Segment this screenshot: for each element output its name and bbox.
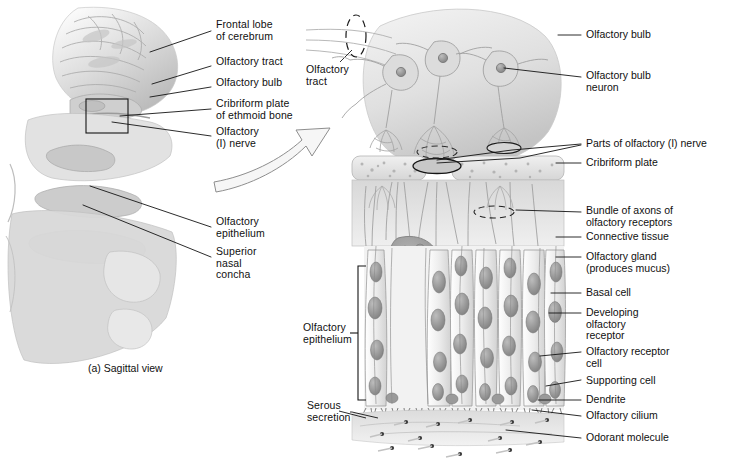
label-basal-cell: Basal cell <box>586 287 631 299</box>
olfactory-epithelium-bracket <box>350 266 366 400</box>
label-olfactory-bulb-neuron: Olfactory bulb neuron <box>586 70 651 93</box>
label-connective-tissue: Connective tissue <box>586 231 669 243</box>
label-olfactory-bulb-a: Olfactory bulb <box>216 77 282 89</box>
sagittal-head-view <box>6 7 178 363</box>
label-superior-nasal-concha: Superior nasal concha <box>216 246 257 281</box>
label-dendrite: Dendrite <box>586 394 626 406</box>
label-odorant-molecule: Odorant molecule <box>586 432 669 444</box>
label-developing-receptor: Developing olfactory receptor <box>586 307 639 342</box>
label-parts-of-olfactory-nerve: Parts of olfactory (I) nerve <box>586 138 707 150</box>
label-cribriform-plate-b: Cribriform plate <box>586 157 658 169</box>
label-supporting-cell: Supporting cell <box>586 375 655 387</box>
label-olfactory-nerve-a: Olfactory (I) nerve <box>216 126 259 149</box>
label-olfactory-tract-a: Olfactory tract <box>216 56 283 68</box>
label-olfactory-receptor-cell: Olfactory receptor cell <box>586 346 669 369</box>
label-frontal-lobe: Frontal lobe of cerebrum <box>216 19 273 42</box>
label-cribriform-plate-a: Cribriform plate of ethmoid bone <box>216 98 293 121</box>
label-olfactory-epithelium-bracket: Olfactory epithelium <box>303 322 352 345</box>
label-olfactory-tract-b: Olfactory tract <box>306 64 349 87</box>
label-olfactory-epithelium-a: Olfactory epithelium <box>216 216 265 239</box>
label-olfactory-gland: Olfactory gland (produces mucus) <box>586 251 670 274</box>
label-serous-secretion: Serous secretion <box>307 400 351 423</box>
label-bundle-of-axons: Bundle of axons of olfactory receptors <box>586 205 673 228</box>
caption-sagittal-view: (a) Sagittal view <box>88 362 163 374</box>
label-olfactory-bulb-b: Olfactory bulb <box>586 29 651 41</box>
label-olfactory-cilium: Olfactory cilium <box>586 410 658 422</box>
nerve-bundle-foramen <box>413 159 461 174</box>
olfactory-tract-cut <box>346 15 366 57</box>
mucus-layer <box>352 410 564 445</box>
figure-root: Frontal lobe of cerebrum Olfactory tract… <box>0 0 729 468</box>
